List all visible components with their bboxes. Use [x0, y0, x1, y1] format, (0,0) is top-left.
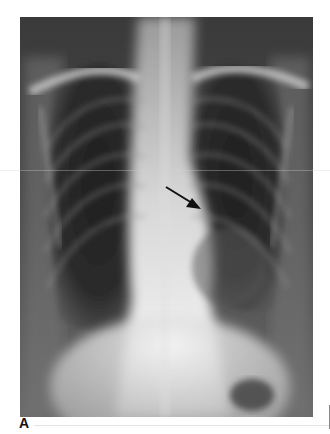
panel-label: A	[19, 416, 29, 430]
divider	[34, 425, 330, 426]
chest-radiograph	[20, 17, 313, 417]
scan-crease	[0, 170, 330, 171]
xray-image	[20, 17, 313, 417]
